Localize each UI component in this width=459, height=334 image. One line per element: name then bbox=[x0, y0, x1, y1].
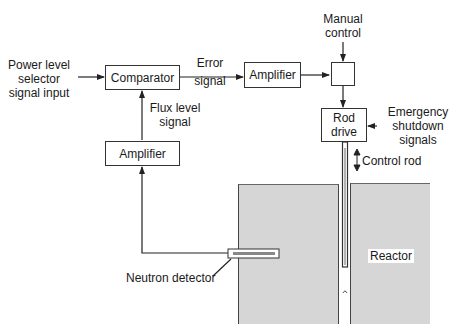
comparator-block: Comparator bbox=[105, 65, 180, 90]
emergency-line-2: shutdown bbox=[380, 119, 456, 133]
control-rod bbox=[343, 142, 348, 267]
emergency-line-3: signals bbox=[380, 133, 456, 147]
manual-control-label: Manual control bbox=[318, 12, 368, 40]
error-signal-label: Error signal bbox=[184, 56, 236, 88]
flux-level-signal-label: Flux level signal bbox=[144, 101, 206, 129]
manual-line-1: Manual bbox=[318, 12, 368, 26]
amplifier-feedback-block: Amplifier bbox=[105, 141, 180, 166]
reactor-text: Reactor bbox=[370, 249, 412, 263]
emergency-line-1: Emergency bbox=[380, 105, 456, 119]
emergency-shutdown-label: Emergency shutdown signals bbox=[380, 105, 456, 147]
flux-line-1: Flux level bbox=[144, 101, 206, 115]
rod-drive-line-2: drive bbox=[331, 125, 357, 139]
manual-line-2: control bbox=[318, 26, 368, 40]
power-level-input-label: Power level selector signal input bbox=[0, 58, 78, 100]
control-rod-text: Control rod bbox=[362, 154, 421, 168]
comparator-label: Comparator bbox=[111, 71, 174, 85]
error-line-2: signal bbox=[184, 74, 236, 88]
amplifier-forward-label: Amplifier bbox=[249, 68, 296, 82]
reactor-label: Reactor bbox=[368, 249, 414, 263]
neutron-detector-shape bbox=[228, 249, 279, 258]
summing-junction-block bbox=[331, 62, 355, 86]
flux-line-2: signal bbox=[144, 115, 206, 129]
power-level-line-1: Power level bbox=[0, 58, 78, 72]
power-level-line-3: signal input bbox=[0, 86, 78, 100]
error-line-1: Error bbox=[184, 56, 236, 70]
control-rod-label: Control rod bbox=[362, 154, 421, 168]
power-level-line-2: selector bbox=[0, 72, 78, 86]
amplifier-feedback-label: Amplifier bbox=[119, 147, 166, 161]
neutron-detector-text: Neutron detector bbox=[126, 271, 215, 285]
neutron-detector-label: Neutron detector bbox=[126, 271, 215, 285]
amplifier-forward-block: Amplifier bbox=[244, 62, 301, 88]
rod-drive-line-1: Rod bbox=[333, 111, 355, 125]
rod-drive-block: Rod drive bbox=[321, 108, 367, 142]
